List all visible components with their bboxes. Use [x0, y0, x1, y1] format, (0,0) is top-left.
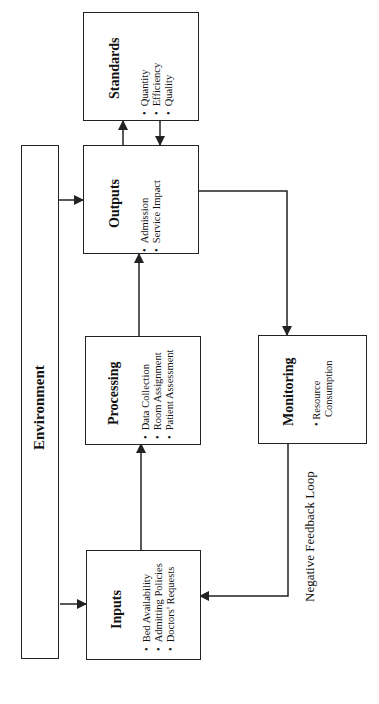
monitoring-items: • Resource Consumption [311, 360, 335, 426]
outputs-item: Service Impact [151, 180, 163, 252]
standards-item: Efficiency [151, 63, 163, 115]
standards-item: Quality [163, 63, 175, 115]
inputs-item: Doctors' Requests [165, 563, 177, 651]
inputs-title: Inputs [109, 590, 125, 629]
monitoring-title: Monitoring [281, 358, 297, 426]
outputs-box: Outputs Admission Service Impact [83, 145, 199, 254]
processing-box: Processing Data Collection Room Assignme… [85, 336, 201, 445]
standards-items: Quantity Efficiency Quality [139, 63, 175, 115]
processing-items: Data Collection Room Assignment Patient … [140, 350, 176, 439]
monitoring-item-cont: Consumption [323, 360, 335, 426]
standards-item: Quantity [139, 63, 151, 115]
processing-item: Data Collection [140, 350, 152, 439]
feedback-loop-label: Negative Feedback Loop [302, 471, 318, 602]
outputs-items: Admission Service Impact [139, 180, 163, 252]
inputs-box: Inputs Bed Availability Admitting Polici… [86, 550, 201, 660]
standards-box: Standards Quantity Efficiency Quality [83, 12, 199, 121]
environment-title: Environment [31, 365, 48, 450]
processing-item: Room Assignment [152, 350, 164, 439]
processing-item: Patient Assessment [164, 350, 176, 439]
processing-title: Processing [106, 361, 122, 425]
outputs-title: Outputs [107, 179, 123, 228]
monitoring-item: • Resource [311, 360, 323, 426]
monitoring-box: Monitoring • Resource Consumption [258, 335, 367, 444]
standards-title: Standards [107, 38, 123, 99]
environment-box: Environment [21, 145, 59, 659]
inputs-items: Bed Availability Admitting Policies Doct… [141, 563, 177, 651]
outputs-item: Admission [139, 180, 151, 252]
inputs-item: Admitting Policies [153, 563, 165, 651]
inputs-item: Bed Availability [141, 563, 153, 651]
